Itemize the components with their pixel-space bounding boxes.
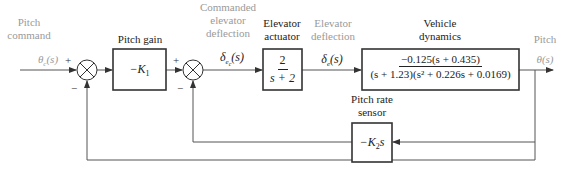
sum2-minus-sign: − bbox=[177, 82, 183, 94]
sum2-plus-sign: + bbox=[173, 54, 179, 66]
vehicle-numerator: −0.125(s + 0.435) bbox=[399, 53, 482, 67]
pitch-rate-sensor-title: Pitch rate sensor bbox=[335, 93, 409, 119]
actuator-denominator: s + 2 bbox=[268, 70, 297, 86]
pitch-output-label: Pitch bbox=[525, 33, 565, 46]
elevator-deflection-label: Elevator deflection bbox=[306, 17, 360, 43]
vehicle-denominator: (s + 1.23)(s² + 0.226s + 0.0169) bbox=[368, 67, 512, 80]
commanded-label-line1: Commanded bbox=[190, 1, 266, 14]
output-symbol: θ(s) bbox=[525, 53, 565, 66]
pitch-command-label-line1: Pitch bbox=[2, 16, 56, 29]
elevator-actuator-title-line1: Elevator bbox=[254, 17, 310, 30]
vehicle-dynamics-transfer-function: −0.125(s + 0.435)(s + 1.23)(s² + 0.226s … bbox=[362, 53, 519, 80]
vehicle-dynamics-title-line1: Vehicle bbox=[400, 17, 480, 30]
elevator-deflection-label-line1: Elevator bbox=[306, 17, 360, 30]
commanded-symbol: δec(s) bbox=[212, 51, 252, 72]
actuator-numerator: 2 bbox=[278, 53, 288, 70]
elevator-actuator-transfer-function: 2s + 2 bbox=[263, 53, 302, 86]
elevator-actuator-title-line2: actuator bbox=[254, 30, 310, 43]
vehicle-dynamics-title: Vehicle dynamics bbox=[400, 17, 480, 43]
sum1-plus-sign: + bbox=[65, 54, 71, 66]
pitch-gain-title: Pitch gain bbox=[110, 33, 170, 46]
input-symbol: θc(s) bbox=[28, 53, 68, 71]
pitch-rate-sensor-content: −K2s bbox=[352, 135, 392, 151]
elevator-actuator-title: Elevator actuator bbox=[254, 17, 310, 43]
pitch-gain-content: −K1 bbox=[113, 62, 166, 78]
pitch-command-label-line2: command bbox=[2, 29, 56, 42]
pitch-command-label: Pitch command bbox=[2, 16, 56, 42]
pitch-rate-sensor-title-line2: sensor bbox=[335, 106, 409, 119]
pitch-rate-sensor-title-line1: Pitch rate bbox=[335, 93, 409, 106]
elevator-deflection-label-line2: deflection bbox=[306, 30, 360, 43]
summing-junction-2 bbox=[183, 60, 203, 80]
sum1-minus-sign: − bbox=[71, 82, 77, 94]
elevator-symbol: δe(s) bbox=[312, 53, 352, 71]
summing-junction-1 bbox=[77, 60, 97, 80]
vehicle-dynamics-title-line2: dynamics bbox=[400, 30, 480, 43]
